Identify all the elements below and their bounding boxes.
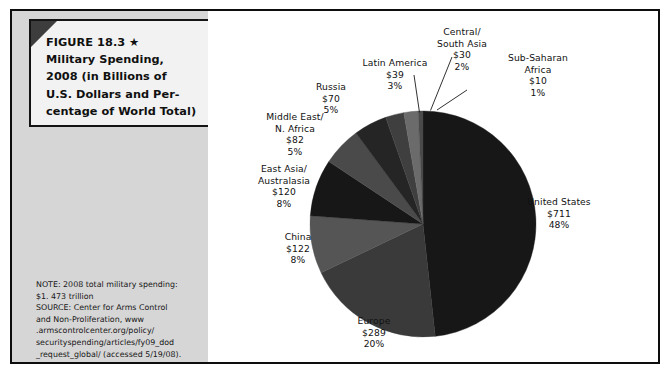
label-central-south-asia: Central/ South Asia $30 2%	[426, 26, 498, 72]
caption-panel: FIGURE 18.3 ★ Military Spending, 2008 (i…	[12, 11, 208, 362]
figure-page: FIGURE 18.3 ★ Military Spending, 2008 (i…	[0, 0, 671, 380]
figure-title-card: FIGURE 18.3 ★ Military Spending, 2008 (i…	[29, 19, 215, 127]
label-sub-saharan-africa: Sub-Saharan Africa $10 1%	[494, 52, 582, 98]
figure-note-and-source: NOTE: 2008 total military spending: $1. …	[36, 279, 208, 360]
pie-slices	[310, 111, 536, 337]
figure-frame: FIGURE 18.3 ★ Military Spending, 2008 (i…	[10, 9, 660, 364]
label-europe: Europe $289 20%	[335, 315, 413, 350]
chart-area: United States $711 48% Europe $289 20% C…	[208, 11, 658, 362]
leader-line-sub-saharan-africa	[437, 90, 467, 110]
label-east-asia-australasia: East Asia/ Australasia $120 8%	[238, 163, 330, 209]
label-china: China $122 8%	[264, 231, 332, 266]
label-united-states: United States $711 48%	[511, 196, 607, 231]
figure-title: FIGURE 18.3 ★ Military Spending, 2008 (i…	[46, 34, 208, 120]
label-middle-east-n-africa: Middle East/ N. Africa $82 5%	[249, 111, 341, 157]
